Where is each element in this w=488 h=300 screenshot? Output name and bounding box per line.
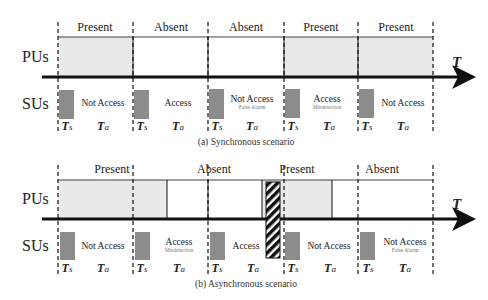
sync-pu-state-2: Absent	[154, 20, 188, 35]
sync-su-row-label: SUs	[22, 95, 49, 113]
sync-su-action-4: AccessMisdetection	[313, 94, 342, 111]
sync-caption: (a) Synchronous scenario	[198, 137, 295, 147]
async-su-row-label: SUs	[22, 237, 49, 255]
sync-pu-state-3: Absent	[229, 20, 263, 35]
async-su-action-4: Not Access	[307, 241, 350, 251]
async-pu-state-2: Absent	[197, 162, 231, 177]
sync-ts-1: Ts	[62, 119, 73, 134]
async-pu-state-3: Present	[279, 162, 314, 177]
async-ts-3: Ts	[212, 261, 223, 276]
sync-ts-2: Ts	[137, 119, 148, 134]
sync-ta-4: Ta	[323, 119, 335, 134]
async-ts-1: Ts	[62, 261, 73, 276]
async-axis-label: T	[452, 196, 461, 213]
sync-ts-5: Ts	[362, 119, 373, 134]
async-su-action-1: Not Access	[81, 241, 124, 251]
async-pu-state-4: Absent	[365, 162, 399, 177]
async-ta-1: Ta	[97, 261, 109, 276]
async-ts-5: Ts	[363, 261, 374, 276]
sync-ta-2: Ta	[172, 119, 184, 134]
async-ts-2: Ts	[137, 261, 148, 276]
collision-hatched-block	[266, 182, 280, 258]
sync-su-action-5: Not Access	[381, 98, 424, 108]
sync-su-action-3: Not AccessFalse Alarm	[230, 94, 273, 111]
async-su-action-2: AccessMisdetection	[165, 237, 194, 254]
async-pu-present-blocks	[58, 180, 332, 219]
sync-axis-label: T	[452, 54, 461, 71]
async-ta-2: Ta	[173, 261, 185, 276]
sync-su-action-2: Access	[165, 98, 192, 108]
async-su-action-3: Access	[233, 241, 260, 251]
async-ta-4: Ta	[324, 261, 336, 276]
async-pu-row-label: PUs	[22, 190, 49, 208]
async-su-action-5: Not AccessFalse Alarm	[383, 237, 426, 254]
async-ts-4: Ts	[288, 261, 299, 276]
async-pu-state-1: Present	[94, 162, 129, 177]
sync-pu-state-4: Present	[303, 20, 338, 35]
sync-pu-row-label: PUs	[22, 48, 49, 66]
diagram-graphics	[0, 0, 488, 300]
async-ta-5: Ta	[399, 261, 411, 276]
sync-pu-state-5: Present	[378, 20, 413, 35]
sync-ts-3: Ts	[212, 119, 223, 134]
async-ta-3: Ta	[247, 261, 259, 276]
sync-ta-5: Ta	[397, 119, 409, 134]
sync-ta-1: Ta	[97, 119, 109, 134]
async-caption: (b) Asynchronous scenario	[195, 279, 297, 289]
sync-su-action-1: Not Access	[81, 98, 124, 108]
sync-ta-3: Ta	[246, 119, 258, 134]
sync-pu-state-1: Present	[77, 20, 112, 35]
sync-pu-present-blocks	[58, 37, 433, 77]
sync-ts-4: Ts	[288, 119, 299, 134]
